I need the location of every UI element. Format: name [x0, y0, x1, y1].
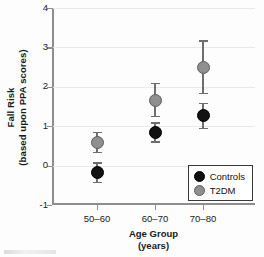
y-tick-label: -1 [26, 199, 48, 210]
y-tick-label: 2 [26, 80, 48, 91]
data-point-marker [197, 109, 210, 122]
scan-edge-artifact [4, 250, 56, 254]
y-axis-line [52, 8, 54, 205]
fall-risk-scatter-chart: Fall Risk (based upon PPA scores) -10123… [0, 0, 264, 257]
data-point-marker [91, 166, 104, 179]
error-bar-cap [151, 116, 160, 117]
x-tick [203, 205, 204, 210]
legend-item-t2dm: T2DM [194, 183, 245, 197]
x-tick-label: 70–80 [180, 213, 226, 224]
x-axis-title-units: (years) [52, 240, 255, 252]
error-bar-cap [93, 162, 102, 163]
gridline [53, 8, 255, 9]
x-axis-title: Age Group (years) [52, 228, 255, 251]
error-bar-cap [199, 40, 208, 41]
error-bar-cap [93, 132, 102, 133]
y-tick-label: 1 [26, 120, 48, 131]
gridline [53, 47, 255, 48]
y-tick-label: 4 [26, 2, 48, 13]
data-point-marker [91, 136, 104, 149]
error-bar-cap [199, 128, 208, 129]
x-tick [97, 205, 98, 210]
y-axis-title-line1: Fall Risk [5, 29, 17, 187]
error-bar-cap [151, 83, 160, 84]
error-bar-cap [199, 103, 208, 104]
legend-swatch-controls-icon [194, 171, 205, 182]
x-tick [155, 205, 156, 210]
legend-swatch-t2dm-icon [194, 185, 205, 196]
error-bar-cap [151, 122, 160, 123]
y-axis-title: Fall Risk (based upon PPA scores) [0, 0, 32, 215]
x-tick-label: 60–70 [132, 213, 178, 224]
x-axis-title-text: Age Group [52, 228, 255, 240]
legend-label-controls: Controls [210, 171, 245, 182]
legend-label-t2dm: T2DM [210, 185, 236, 196]
chart-legend: Controls T2DM [188, 165, 253, 201]
error-bar-cap [93, 152, 102, 153]
legend-item-controls: Controls [194, 169, 245, 183]
error-bar-cap [93, 182, 102, 183]
data-point-marker [197, 61, 210, 74]
plot-area: -101234 50–6060–7070–80 Controls T2DM [52, 8, 255, 205]
error-bar-cap [199, 93, 208, 94]
data-point-marker [149, 126, 162, 139]
x-axis-line [52, 203, 255, 205]
y-tick-label: 0 [26, 159, 48, 170]
error-bar-cap [151, 141, 160, 142]
data-point-marker [149, 94, 162, 107]
x-tick-label: 50–60 [74, 213, 120, 224]
y-tick-label: 3 [26, 41, 48, 52]
